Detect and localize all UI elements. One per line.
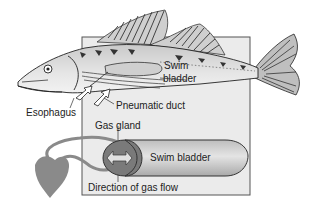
swim-bladder-label-line1: Swim [164,61,188,71]
swim-bladder-diagram: Swim bladder Esophagus Pneumatic duct Ga… [0,0,311,209]
swim-bladder-label-line2: bladder [163,74,196,84]
fish-swim-bladder [105,62,162,76]
tail-fin [255,34,299,95]
esophagus-label: Esophagus [26,108,76,118]
heart-shape [35,156,69,198]
pneumatic-duct-label: Pneumatic duct [116,101,185,111]
gas-gland-label: Gas gland [95,121,141,131]
direction-of-gas-flow-label: Direction of gas flow [88,183,178,193]
inset-swim-bladder-label: Swim bladder [150,153,211,163]
